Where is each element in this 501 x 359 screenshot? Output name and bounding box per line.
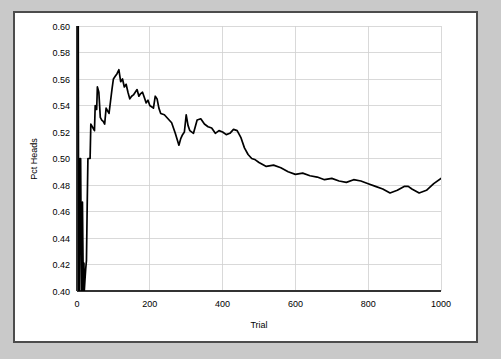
y-tick-label: 0.54 <box>52 101 70 111</box>
y-tick-label: 0.44 <box>52 234 70 244</box>
x-tick-label: 600 <box>288 299 303 309</box>
y-tick-label: 0.48 <box>52 181 70 191</box>
y-tick-label: 0.56 <box>52 75 70 85</box>
x-axis-title: Trial <box>250 320 267 330</box>
y-tick-labels: 0.400.420.440.460.480.500.520.540.560.58… <box>52 22 70 297</box>
y-tick-label: 0.46 <box>52 207 70 217</box>
y-tick-label: 0.60 <box>52 22 70 32</box>
x-tick-labels: 02004006008001000 <box>74 299 451 309</box>
chart-page: 0.400.420.440.460.480.500.520.540.560.58… <box>0 0 501 359</box>
y-axis-title: Pct Heads <box>29 138 39 180</box>
y-tick-label: 0.52 <box>52 128 70 138</box>
x-tick-label: 800 <box>361 299 376 309</box>
y-tick-label: 0.50 <box>52 154 70 164</box>
x-tick-label: 0 <box>74 299 79 309</box>
x-tick-label: 400 <box>215 299 230 309</box>
y-tick-label: 0.42 <box>52 260 70 270</box>
y-tick-label: 0.40 <box>52 287 70 297</box>
x-tick-label: 200 <box>142 299 157 309</box>
line-chart: 0.400.420.440.460.480.500.520.540.560.58… <box>15 13 476 341</box>
y-tick-label: 0.58 <box>52 48 70 58</box>
chart-card: 0.400.420.440.460.480.500.520.540.560.58… <box>13 11 478 343</box>
x-tick-label: 1000 <box>431 299 451 309</box>
